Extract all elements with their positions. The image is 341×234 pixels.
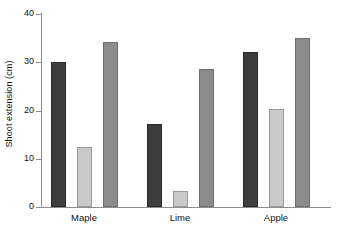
plot-area xyxy=(42,14,330,207)
y-axis-tick xyxy=(36,159,41,160)
bar-apple-series-3 xyxy=(295,38,310,207)
y-axis-tick-label: 40 xyxy=(8,9,34,18)
y-axis-tick xyxy=(36,62,41,63)
y-axis-tick xyxy=(36,207,41,208)
bar-lime-series-1 xyxy=(147,124,162,207)
y-axis-tick-label: 0 xyxy=(8,202,34,211)
y-axis-title-label: Shoot extension (cm) xyxy=(4,60,14,147)
x-axis-line xyxy=(41,207,331,208)
y-axis-tick-label: 20 xyxy=(8,106,34,115)
bar-maple-series-3 xyxy=(103,42,118,207)
y-axis-title: Shoot extension (cm) xyxy=(0,0,18,208)
y-axis-tick xyxy=(36,111,41,112)
x-axis-label-apple: Apple xyxy=(236,212,316,223)
y-axis-tick xyxy=(36,14,41,15)
bar-lime-series-3 xyxy=(199,69,214,207)
bar-apple-series-1 xyxy=(243,52,258,207)
bar-lime-series-2 xyxy=(173,191,188,207)
y-axis-tick-label: 30 xyxy=(8,57,34,66)
bar-apple-series-2 xyxy=(269,109,284,207)
bar-chart: Shoot extension (cm) 010203040 MapleLime… xyxy=(0,0,341,234)
bar-maple-series-2 xyxy=(77,147,92,207)
bar-maple-series-1 xyxy=(51,62,66,207)
x-axis-label-maple: Maple xyxy=(44,212,124,223)
y-axis-tick-label: 10 xyxy=(8,154,34,163)
x-axis-label-lime: Lime xyxy=(140,212,220,223)
